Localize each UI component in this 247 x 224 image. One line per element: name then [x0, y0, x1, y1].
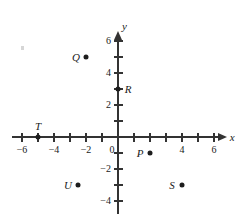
y-tick-label: 6: [92, 36, 111, 46]
x-axis-tick: [149, 133, 150, 142]
plotted-point-s: [180, 183, 185, 188]
x-axis-tick: [181, 133, 182, 142]
y-axis-tick: [114, 104, 123, 105]
x-axis-tick: [101, 133, 102, 142]
y-axis-tick: [114, 200, 123, 201]
x-tick-label: 0: [110, 145, 115, 155]
y-axis-line: [117, 39, 119, 213]
plotted-point-q: [84, 55, 89, 60]
point-label-u: U: [64, 180, 72, 191]
x-tick-label: 4: [180, 145, 185, 155]
point-label-q: Q: [72, 52, 80, 63]
point-label-r: R: [125, 84, 132, 95]
x-axis-tick: [213, 133, 214, 142]
y-tick-label: 4: [92, 68, 111, 78]
x-tick-label: 6: [212, 145, 217, 155]
x-axis-tick: [53, 133, 54, 142]
x-axis-tick: [69, 133, 70, 142]
point-label-t: T: [35, 121, 41, 132]
x-axis-arrowhead: [218, 133, 227, 141]
y-axis-tick: [114, 40, 123, 41]
x-axis-tick: [21, 133, 22, 142]
x-tick-label: −2: [81, 145, 92, 155]
x-axis-tick: [165, 133, 166, 142]
y-axis-arrowhead: [114, 31, 122, 40]
plotted-point-r: [116, 87, 121, 92]
x-axis-tick: [85, 133, 86, 142]
plotted-point-u: [76, 183, 81, 188]
scan-artifact-speck: [21, 46, 24, 50]
coordinate-plane-figure: x y −6−4−2046642−2−4 PQRSTU: [0, 0, 247, 224]
y-tick-label: −4: [92, 196, 111, 206]
x-axis-tick: [197, 133, 198, 142]
y-tick-label: 2: [92, 100, 111, 110]
y-axis-tick: [114, 184, 123, 185]
y-axis-label: y: [122, 21, 127, 32]
x-axis-tick: [133, 133, 134, 142]
x-tick-label: −6: [17, 145, 28, 155]
x-axis-label: x: [230, 132, 235, 143]
y-axis-tick: [114, 56, 123, 57]
point-label-s: S: [169, 180, 175, 191]
y-axis-tick: [114, 72, 123, 73]
plotted-point-p: [148, 151, 153, 156]
y-axis-tick: [114, 120, 123, 121]
y-axis-tick: [114, 152, 123, 153]
y-tick-label: −2: [92, 164, 111, 174]
y-axis-tick: [114, 168, 123, 169]
point-label-p: P: [137, 148, 144, 159]
x-axis-line: [12, 136, 218, 138]
plotted-point-t: [36, 135, 41, 140]
x-tick-label: −4: [49, 145, 60, 155]
